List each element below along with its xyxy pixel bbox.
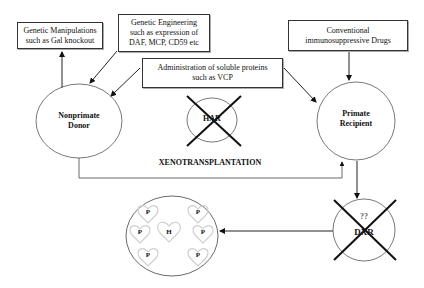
recipient-label: Primate Recipient	[321, 109, 391, 129]
box-text-line: Genetic Manipulations	[18, 26, 102, 36]
heart-label-p: P	[142, 251, 154, 259]
donor-label: Nonprimate Donor	[44, 111, 114, 131]
heart-label-p: P	[192, 208, 204, 216]
box-text-line: Conventional	[289, 26, 407, 36]
donor-label-line2: Donor	[44, 121, 114, 131]
heart-label-p: P	[192, 251, 204, 259]
soluble-proteins-box: Administration of soluble proteins such …	[142, 58, 283, 88]
box-text-line: such as Gal knockout	[18, 36, 102, 46]
heart-label-p: P	[134, 228, 146, 236]
box-text-line: DAF, MCP, CD59 etc	[119, 38, 209, 48]
arrow-soluble-proteins-to-recipient	[284, 68, 316, 102]
box-text-line: such as VCP	[143, 73, 282, 83]
box-text-line: immunosuppressive Drugs	[289, 36, 407, 46]
recipient-label-line2: Recipient	[321, 119, 391, 129]
box-text-line: Genetic Engineering	[119, 18, 209, 28]
har-label: HAR	[192, 114, 232, 124]
recipient-label-line1: Primate	[321, 109, 391, 119]
box-text-line: such as expression of	[119, 28, 209, 38]
xenotransplantation-title: XENOTRANSPLANTATION	[130, 158, 290, 168]
arrow-soluble-proteins-to-donor	[111, 68, 140, 96]
genetic-manipulations-box: Genetic Manipulations such as Gal knocko…	[17, 22, 103, 49]
dxr-label: DXR	[339, 227, 389, 237]
genetic-engineering-box: Genetic Engineering such as expression o…	[118, 14, 210, 52]
dxr-question-marks: ??	[344, 212, 384, 222]
immunosuppressive-drugs-box: Conventional immunosuppressive Drugs	[288, 20, 408, 51]
box-text-line: Administration of soluble proteins	[143, 63, 282, 73]
heart-label-p: P	[197, 228, 209, 236]
donor-label-line1: Nonprimate	[44, 111, 114, 121]
heart-label-p: P	[142, 208, 154, 216]
arrow-genetic-engineering-to-donor	[90, 51, 117, 83]
heart-label-h: H	[163, 228, 175, 236]
outcome-circle	[126, 196, 218, 276]
